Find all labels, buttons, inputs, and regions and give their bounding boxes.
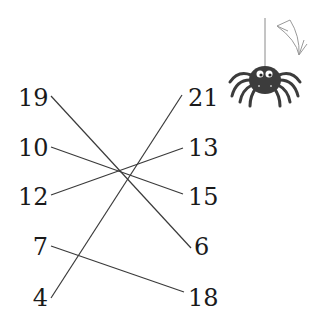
right-number-4: 6 [194, 235, 234, 259]
line-10-to-15 [51, 147, 183, 194]
left-number-2: 10 [18, 136, 48, 160]
connection-lines [0, 0, 314, 330]
left-number-3: 12 [18, 185, 48, 209]
right-number-5: 18 [188, 286, 228, 310]
left-number-1: 19 [18, 86, 48, 110]
line-7-to-18 [51, 246, 184, 292]
left-number-4: 7 [18, 235, 48, 259]
right-number-1: 21 [188, 86, 228, 110]
right-number-2: 13 [188, 136, 228, 160]
line-12-to-13 [51, 148, 183, 195]
spider-icon [230, 18, 300, 106]
cobweb-icon [277, 20, 307, 55]
right-number-3: 15 [188, 185, 228, 209]
line-4-to-21 [51, 95, 182, 298]
left-number-5: 4 [18, 286, 48, 310]
